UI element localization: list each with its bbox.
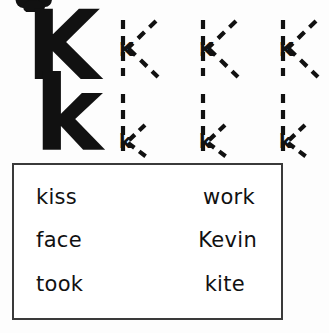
model-letter-lowercase-k: k — [34, 62, 102, 166]
trace-stamp-uppercase-k: K — [199, 40, 214, 59]
word-item[interactable]: kite — [205, 272, 259, 296]
handwriting-worksheet: K K K — [0, 0, 329, 333]
trace-stamp-uppercase-k: K — [279, 40, 294, 59]
trace-guide-uppercase-1[interactable]: K — [118, 18, 166, 80]
trace-stamp-lowercase-k: k — [119, 132, 132, 151]
lowercase-practice-row: k k k — [0, 86, 329, 162]
word-row: took kite — [36, 272, 259, 296]
word-item[interactable]: kiss — [36, 185, 77, 209]
trace-stamp-lowercase-k: k — [279, 132, 292, 151]
trace-guide-lowercase-1[interactable]: k — [118, 92, 166, 162]
trace-stamp-lowercase-k: k — [199, 132, 212, 151]
word-list-box: kiss work face Kevin took kite — [12, 163, 283, 320]
trace-guide-uppercase-3[interactable]: K — [278, 18, 326, 80]
word-item[interactable]: took — [36, 272, 83, 296]
word-item[interactable]: face — [36, 228, 82, 252]
word-row: kiss work — [36, 185, 259, 209]
trace-guide-lowercase-2[interactable]: k — [198, 92, 246, 162]
trace-guide-lowercase-3[interactable]: k — [278, 92, 326, 162]
word-list-grid: kiss work face Kevin took kite — [14, 165, 281, 318]
trace-guide-uppercase-2[interactable]: K — [198, 18, 246, 80]
word-item[interactable]: work — [203, 185, 259, 209]
word-row: face Kevin — [36, 228, 259, 252]
word-item[interactable]: Kevin — [198, 228, 259, 252]
trace-stamp-uppercase-k: K — [119, 40, 134, 59]
